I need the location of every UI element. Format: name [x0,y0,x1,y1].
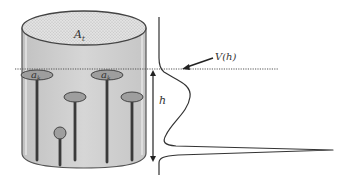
pore-volume-diagram: At ak ak h V(h) [0,0,348,182]
volume-function-label: V(h) [215,51,237,62]
pore-mid-right [121,92,143,102]
volume-pointer-arrow [187,58,213,67]
cylinder: At [22,11,146,168]
height-arrow [150,70,156,162]
pore-mid-left [64,92,86,102]
volume-curve [159,17,333,175]
height-label: h [159,94,166,107]
pore-small [54,127,66,139]
